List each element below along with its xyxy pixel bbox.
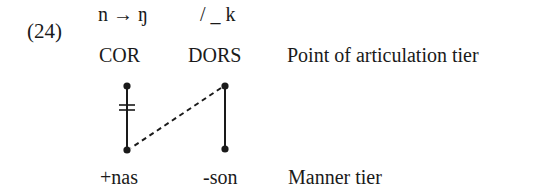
node-dot-nas (123, 146, 130, 153)
node-dot-son (221, 145, 228, 152)
association-lines (0, 0, 541, 195)
dashed-association-dors-nas (131, 88, 221, 148)
node-dot-cor (123, 82, 130, 89)
node-dot-dors (221, 82, 228, 89)
